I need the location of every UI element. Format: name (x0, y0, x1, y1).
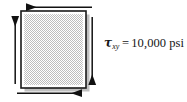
stress-unit: psi (166, 36, 184, 50)
shear-stress-label: τxy=10,000psi (104, 37, 184, 51)
stress-value: 10,000 (131, 36, 166, 50)
stress-element-diagram (0, 0, 187, 102)
element-fill (24, 14, 83, 85)
shear-stress-figure: τxy=10,000psi (0, 0, 187, 102)
tau-symbol: τ (104, 36, 112, 50)
equals-sign: = (119, 36, 131, 50)
